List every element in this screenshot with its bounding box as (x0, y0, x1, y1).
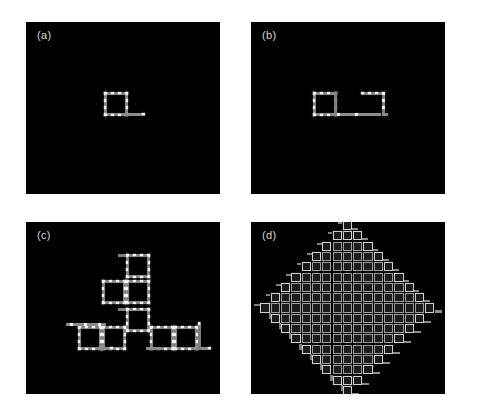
lattice-cell (353, 283, 362, 292)
loop-node (133, 330, 136, 333)
lattice-cell (291, 324, 300, 333)
lattice-cell (343, 252, 352, 261)
lattice-cell (405, 314, 414, 323)
loop-node (147, 280, 150, 283)
lattice-cell (322, 273, 331, 282)
lattice-cell (322, 324, 331, 333)
loop-path-left (313, 92, 316, 116)
lattice-cell (333, 231, 342, 240)
lattice-cell (322, 314, 331, 323)
lattice-cell (353, 262, 362, 271)
growth-riser (310, 354, 312, 360)
loop2-node (361, 92, 364, 95)
loop-node (111, 92, 114, 95)
lattice-cell (312, 293, 321, 302)
lattice-cell (363, 303, 372, 312)
lattice-cell (353, 334, 362, 343)
growth-stub (286, 274, 291, 276)
panel-a-label: (a) (37, 29, 51, 41)
lattice-cell (343, 303, 352, 312)
growth-stub (266, 294, 271, 296)
loop-node (133, 302, 136, 305)
lattice-cell (302, 334, 311, 343)
loop-node (124, 287, 127, 290)
lattice-cell (384, 314, 393, 323)
growth-tail (424, 300, 430, 302)
lattice-cell (322, 303, 331, 312)
loop-node (164, 326, 167, 329)
loop-node (123, 280, 126, 283)
loop-node (116, 348, 119, 351)
loop-node (126, 315, 129, 318)
growth-tail (383, 259, 389, 261)
loop-node (133, 308, 136, 311)
connector-node (355, 113, 358, 116)
lattice-cell (343, 283, 352, 292)
lattice-cell (374, 355, 383, 364)
lattice-cell (291, 334, 300, 343)
loop-node (85, 326, 88, 329)
loop-node (102, 280, 105, 283)
lattice-cell (415, 293, 424, 302)
loop-node (109, 302, 112, 305)
loop-path-left (126, 280, 129, 304)
loop-path-right (147, 280, 150, 304)
loop-node (133, 280, 136, 283)
lattice-cell (374, 293, 383, 302)
loop-node (109, 326, 112, 329)
growth-riser (289, 333, 291, 339)
lattice-cell (374, 324, 383, 333)
lattice-cell (343, 222, 352, 230)
loop-node (148, 268, 151, 271)
loop-node (327, 92, 330, 95)
lattice-cell (312, 355, 321, 364)
loop2-node (368, 92, 371, 95)
loop-node (124, 294, 127, 297)
lattice-cell (425, 303, 434, 312)
lattice-cell (343, 355, 352, 364)
growth-riser (330, 375, 332, 381)
lattice-cell (291, 273, 300, 282)
lattice-cell (353, 303, 362, 312)
loop-node (174, 340, 177, 343)
growth-stub (297, 263, 302, 265)
loop-node (148, 261, 151, 264)
lattice-cell (322, 283, 331, 292)
panel-b-label: (b) (262, 29, 276, 41)
growth-riser (320, 364, 322, 370)
lattice-cell (363, 262, 372, 271)
panel-c-label: (c) (37, 229, 51, 241)
lattice-cell (343, 262, 352, 271)
lattice-cell (374, 283, 383, 292)
growth-tail (383, 362, 390, 364)
loop2-node (382, 106, 385, 109)
lattice-cell (291, 283, 300, 292)
lattice-cell (363, 324, 372, 333)
lattice-cell (302, 314, 311, 323)
growth-tail (414, 290, 420, 292)
loop-node (148, 287, 151, 290)
growth-tail (373, 372, 380, 374)
lattice-cell (374, 345, 383, 354)
loop-node (188, 348, 191, 351)
lattice-cell (333, 242, 342, 251)
loop-path-left (174, 326, 177, 350)
loop-node (85, 348, 88, 351)
lattice-cell (343, 293, 352, 302)
loop-node (150, 333, 153, 336)
lattice-cell (374, 314, 383, 323)
growth-stub (317, 243, 322, 245)
lattice-cell (384, 334, 393, 343)
lattice-cell (405, 293, 414, 302)
lattice-cell (312, 262, 321, 271)
lattice-cell (281, 303, 290, 312)
panel-a-pattern (26, 22, 220, 194)
loop-node (92, 348, 95, 351)
lattice-cell (405, 283, 414, 292)
loop-node (118, 114, 121, 117)
loop-node (313, 113, 316, 116)
lattice-cell (394, 303, 403, 312)
lattice-cell (353, 314, 362, 323)
loop-node (188, 326, 191, 329)
loop-path-right (123, 326, 126, 350)
